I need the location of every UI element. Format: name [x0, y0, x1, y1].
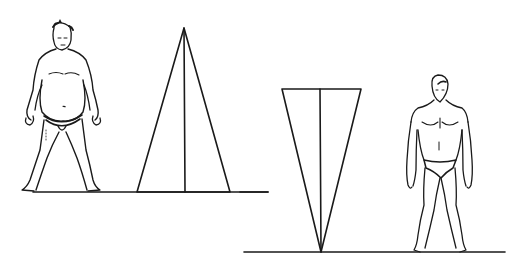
chest — [49, 73, 79, 76]
torso-sides — [418, 130, 462, 160]
right-panel — [240, 75, 505, 252]
mawashi-front — [58, 126, 66, 130]
left-fist — [26, 116, 34, 125]
face — [58, 38, 67, 45]
left-shoulder — [411, 100, 434, 122]
chest — [422, 118, 458, 128]
right-arm-inner — [462, 130, 466, 186]
left-panel — [22, 19, 268, 192]
navel — [62, 106, 66, 108]
head — [432, 75, 448, 102]
left-leg-outer — [414, 168, 425, 252]
right-arm — [467, 122, 472, 188]
inverted-triangle-axis — [320, 89, 321, 252]
right-leg-inner — [66, 132, 87, 190]
left-leg-outer — [22, 120, 44, 191]
left-leg-inner — [36, 132, 59, 190]
athletic-man-figure — [407, 75, 473, 252]
inverted-triangle-shape — [282, 89, 361, 252]
left-arm-inner — [413, 130, 417, 186]
sumo-wrestler-figure — [22, 19, 101, 191]
upright-triangle-shape — [137, 28, 230, 192]
body-type-comparison-diagram — [0, 0, 524, 270]
belly — [40, 80, 85, 121]
right-leg-inner — [441, 178, 456, 248]
left-arm — [407, 122, 412, 188]
upright-triangle-axis — [184, 28, 185, 192]
left-leg-inner — [425, 178, 440, 248]
hair — [438, 81, 446, 84]
briefs — [424, 160, 456, 178]
right-shoulder — [446, 100, 468, 122]
